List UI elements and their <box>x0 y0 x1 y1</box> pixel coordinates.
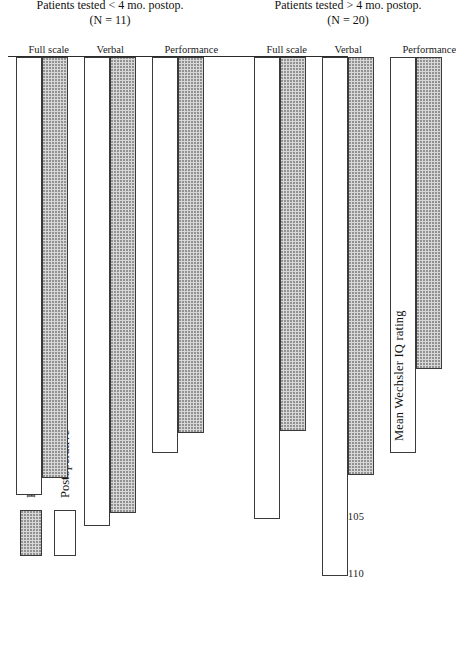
category-label: Performance <box>403 44 456 55</box>
bar-postoperative <box>322 57 348 576</box>
category-label: Verbal <box>97 44 124 55</box>
category-label: Verbal <box>335 44 362 55</box>
bar-preoperative <box>42 57 68 478</box>
bar-preoperative <box>178 57 204 433</box>
bar-postoperative <box>152 57 178 454</box>
bar-preoperative <box>348 57 374 475</box>
category-label: Full scale <box>267 44 308 55</box>
value-axis-tick-label: 110 <box>348 568 364 579</box>
group-caption: Patients tested > 4 mo. postop.(N = 20) <box>274 0 421 28</box>
bar-preoperative <box>110 57 136 513</box>
group-caption-line2: (N = 11) <box>36 13 183 28</box>
value-axis-title: Mean Wechsler IQ rating <box>392 310 407 441</box>
group-caption-line2: (N = 20) <box>274 13 421 28</box>
group-caption-line1: Patients tested > 4 mo. postop. <box>274 0 421 13</box>
bar-preoperative <box>280 57 306 431</box>
legend-swatch-postoperative <box>54 510 76 556</box>
legend-swatch-preoperative <box>20 510 42 556</box>
bar-postoperative <box>16 57 42 495</box>
category-label: Full scale <box>29 44 70 55</box>
bar-preoperative <box>416 57 442 369</box>
group-caption: Patients tested < 4 mo. postop.(N = 11) <box>36 0 183 28</box>
bar-postoperative <box>254 57 280 519</box>
group-caption-line1: Patients tested < 4 mo. postop. <box>36 0 183 13</box>
bar-postoperative <box>84 57 110 526</box>
category-label: Performance <box>165 44 219 55</box>
value-axis-tick-label: 105 <box>348 511 364 522</box>
